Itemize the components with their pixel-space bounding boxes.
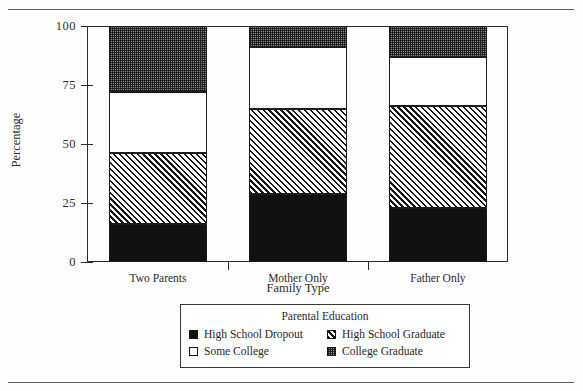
legend-item-label: College Graduate <box>342 345 423 357</box>
y-tick-50 <box>81 144 93 145</box>
y-tick-label-50: 50 <box>63 137 77 152</box>
bar-mother-only[interactable] <box>249 26 347 262</box>
bar-segment-some-college <box>249 47 347 108</box>
y-tick-25 <box>81 203 93 204</box>
x-tick-label-2: Father Only <box>410 272 465 284</box>
legend-item-label: Some College <box>204 345 269 357</box>
x-tick-label-1: Mother Only <box>268 272 328 284</box>
bar-segment-some-college <box>389 57 487 107</box>
legend: Parental Education High School DropoutHi… <box>180 304 470 368</box>
page-bottom-rule <box>8 382 574 383</box>
bar-segment-college-graduate <box>109 26 207 92</box>
x-tick-2 <box>368 261 369 270</box>
dotted-swatch <box>327 347 336 356</box>
hatch-swatch <box>327 330 336 339</box>
legend-item-label: High School Graduate <box>342 328 445 340</box>
y-tick-label-75: 75 <box>63 78 77 93</box>
y-tick-75 <box>81 85 93 86</box>
y-tick-0 <box>81 262 93 263</box>
bar-segment-college-graduate <box>389 26 487 57</box>
bar-segment-high-school-graduate <box>389 106 487 207</box>
bar-segment-high-school-dropout <box>389 208 487 262</box>
bar-segment-high-school-graduate <box>249 109 347 194</box>
solid-black-swatch <box>189 330 198 339</box>
bar-segment-high-school-graduate <box>109 153 207 224</box>
legend-item-college-graduate[interactable]: College Graduate <box>327 345 465 357</box>
legend-item-high-school-graduate[interactable]: High School Graduate <box>327 328 465 340</box>
legend-item-high-school-dropout[interactable]: High School Dropout <box>189 328 327 340</box>
legend-item-label: High School Dropout <box>204 328 303 340</box>
legend-items: High School DropoutHigh School GraduateS… <box>189 328 465 357</box>
y-tick-label-0: 0 <box>69 255 76 270</box>
y-axis-title: Percentage <box>9 113 24 168</box>
legend-item-some-college[interactable]: Some College <box>189 345 327 357</box>
bar-father-only[interactable] <box>389 26 487 262</box>
y-tick-label-25: 25 <box>63 196 77 211</box>
bar-segment-high-school-dropout <box>109 224 207 262</box>
x-tick-label-0: Two Parents <box>129 272 186 284</box>
legend-title: Parental Education <box>181 310 469 322</box>
bar-segment-college-graduate <box>249 26 347 47</box>
open-swatch <box>189 347 198 356</box>
plot-area: 0255075100 Two ParentsMother OnlyFather … <box>88 26 508 262</box>
x-tick-1 <box>228 261 229 270</box>
chart-page: Percentage Family Type 0255075100 Two Pa… <box>0 0 583 391</box>
page-top-rule <box>8 9 574 10</box>
bar-segment-high-school-dropout <box>249 194 347 262</box>
y-tick-100 <box>81 26 93 27</box>
bar-segment-some-college <box>109 92 207 153</box>
y-tick-label-100: 100 <box>56 19 76 34</box>
bar-two-parents[interactable] <box>109 26 207 262</box>
